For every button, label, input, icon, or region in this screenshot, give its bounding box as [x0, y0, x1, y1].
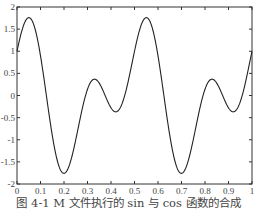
x-tick-label: 1 — [250, 186, 255, 194]
x-tick-label: 0.2 — [58, 186, 69, 194]
x-tick-label: 0.8 — [199, 186, 211, 194]
figure-caption: 图 4-1 M 文件执行的 sin 与 cos 函数的合成 — [0, 194, 257, 210]
y-tick-label: -1 — [8, 135, 16, 145]
x-tick-label: 0.5 — [129, 186, 141, 194]
x-tick-label: 0.3 — [82, 186, 94, 194]
x-tick-label: 0 — [15, 186, 20, 194]
y-tick-label: 1 — [11, 46, 16, 56]
y-tick-label: 0.5 — [4, 68, 16, 78]
x-tick-label: 0.1 — [35, 186, 46, 194]
y-tick-label: 1.5 — [4, 24, 16, 34]
y-tick-label: -1.5 — [1, 157, 16, 167]
plot-area — [17, 7, 252, 184]
y-tick-label: 0 — [11, 91, 16, 101]
y-tick-label: 2 — [11, 2, 16, 12]
x-tick-label: 0.9 — [223, 186, 235, 194]
x-tick-label: 0.4 — [105, 186, 117, 194]
line-chart: 00.10.20.30.40.50.60.70.80.91 21.510.50-… — [0, 0, 257, 194]
y-tick-label: -2 — [8, 179, 16, 189]
x-tick-label: 0.7 — [176, 186, 188, 194]
x-tick-label: 0.6 — [152, 186, 164, 194]
y-tick-label: -0.5 — [1, 113, 16, 123]
